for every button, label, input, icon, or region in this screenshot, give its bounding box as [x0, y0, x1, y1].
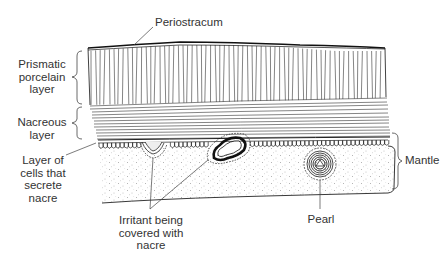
label-nacreous-layer: Nacreous layer [12, 116, 72, 141]
label-line: Layer of [14, 154, 72, 167]
label-line: layer [14, 83, 70, 96]
label-line: Irritant being [108, 214, 194, 227]
prismatic-layer [91, 45, 381, 105]
label-line: Periostracum [155, 16, 223, 29]
prismatic-brace [72, 51, 82, 104]
label-line: nacre [108, 239, 194, 252]
label-prismatic-porcelain-layer: Prismatic porcelain layer [14, 58, 70, 96]
label-periostracum: Periostracum [155, 16, 223, 29]
periostracum-leader [134, 27, 153, 45]
label-line: Prismatic [14, 58, 70, 71]
label-line: secrete [14, 179, 72, 192]
label-cell-layer: Layer of cells that secrete nacre [14, 154, 72, 204]
label-line: covered with [108, 227, 194, 240]
label-line: nacre [14, 192, 72, 205]
label-line: Nacreous [12, 116, 72, 129]
label-line: cells that [14, 167, 72, 180]
label-irritant: Irritant being covered with nacre [108, 214, 194, 252]
label-line: layer [12, 129, 72, 142]
label-mantle: Mantle [405, 154, 440, 167]
label-line: porcelain [14, 71, 70, 84]
mantle-region [100, 146, 395, 203]
nacreous-brace [72, 107, 82, 139]
label-line: Mantle [405, 154, 440, 167]
label-line: Pearl [306, 213, 336, 226]
label-pearl: Pearl [306, 213, 336, 226]
nacreous-layer [90, 98, 390, 139]
